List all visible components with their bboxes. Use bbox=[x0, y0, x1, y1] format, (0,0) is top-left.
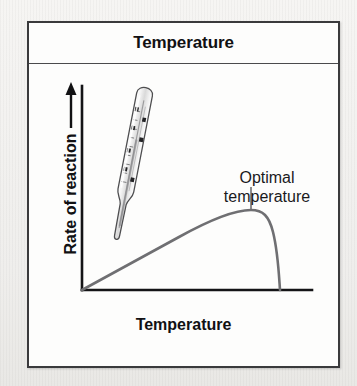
y-axis-caption: Rate of reaction bbox=[59, 68, 83, 268]
annotation-line-1: Optimal bbox=[197, 169, 337, 188]
figure-title-bar: Temperature bbox=[29, 23, 338, 64]
y-axis-label: Rate of reaction bbox=[62, 134, 80, 255]
plot-area: Rate of reaction Temperature Optimal tem… bbox=[29, 64, 338, 370]
x-axis-caption: Temperature bbox=[29, 316, 338, 334]
figure-frame: Temperature Rate of reaction Temperature bbox=[27, 21, 340, 368]
up-arrow-icon bbox=[64, 82, 78, 128]
page-title: Temperature bbox=[133, 33, 234, 53]
optimal-temperature-annotation: Optimal temperature bbox=[197, 169, 337, 206]
annotation-line-2: temperature bbox=[197, 188, 337, 207]
x-axis-label: Temperature bbox=[136, 316, 232, 333]
thermometer-icon bbox=[101, 79, 161, 249]
